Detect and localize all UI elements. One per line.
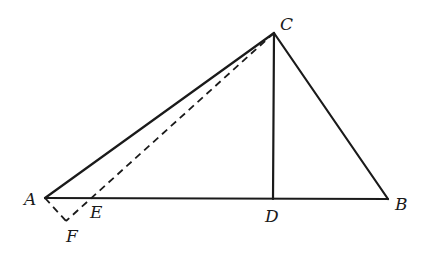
segment-bc (274, 33, 388, 199)
segment-ab (45, 198, 388, 199)
label-point-f: F (65, 226, 79, 246)
solid-segments (45, 33, 388, 199)
segment-cf (66, 33, 274, 221)
dashed-segments (45, 33, 274, 221)
label-point-d: D (264, 206, 279, 226)
segment-af (45, 198, 66, 221)
segment-ac (45, 33, 274, 198)
label-point-a: A (22, 189, 36, 209)
label-point-e: E (89, 202, 103, 222)
segment-cd (273, 33, 274, 199)
label-point-c: C (280, 14, 293, 34)
geometry-diagram: ABCDEF (0, 0, 432, 258)
label-point-b: B (394, 194, 408, 214)
point-labels: ABCDEF (22, 14, 408, 246)
